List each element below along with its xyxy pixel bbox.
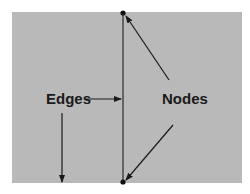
graph-diagram: Edges Nodes bbox=[0, 0, 250, 194]
edges-label: Edges bbox=[46, 90, 91, 107]
nodes-label: Nodes bbox=[162, 90, 208, 107]
graph-node-bottom bbox=[120, 179, 125, 184]
graph-node-top bbox=[120, 10, 125, 15]
